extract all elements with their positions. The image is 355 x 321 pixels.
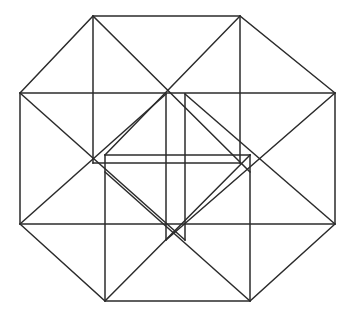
tesseract-figure: Tesseract (4-dimensional hypercube) orth… xyxy=(0,0,355,321)
figure-background xyxy=(0,0,355,321)
